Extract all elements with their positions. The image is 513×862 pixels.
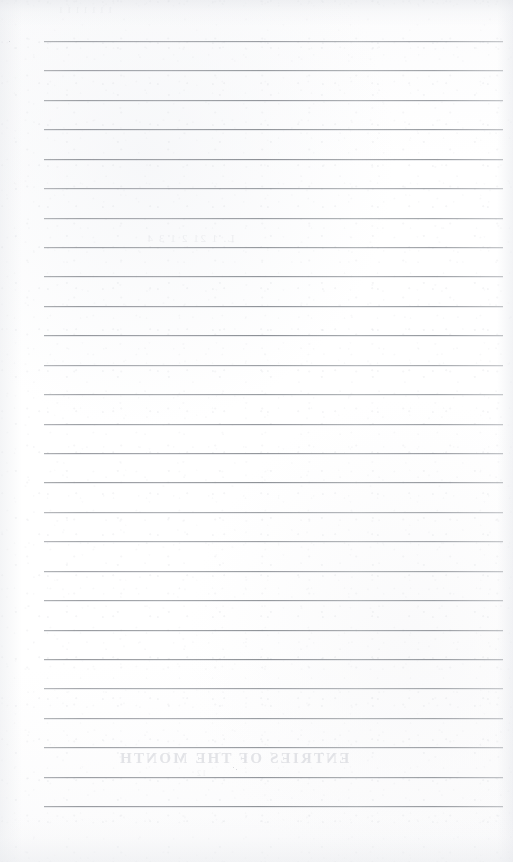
scanned-page: 1 1 1 1 1 1 1 L. 1 21 2 1 3 4 ENTRIES OF…	[0, 0, 513, 862]
rule-line-27	[44, 806, 503, 807]
writing-area[interactable]	[44, 41, 503, 806]
